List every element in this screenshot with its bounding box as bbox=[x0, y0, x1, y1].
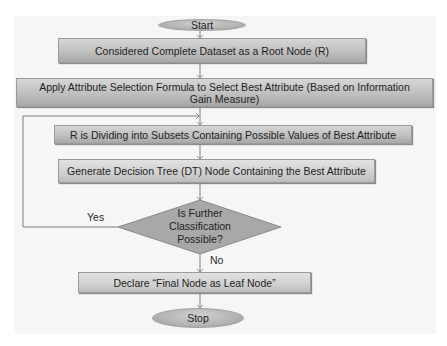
step-generate-node: Generate Decision Tree (DT) Node Contain… bbox=[58, 159, 375, 183]
step-declare-leaf: Declare “Final Node as Leaf Node” bbox=[78, 272, 311, 293]
step-root-node: Considered Complete Dataset as a Root No… bbox=[58, 38, 366, 63]
decision-text: Is Further Classification Possible? bbox=[150, 207, 250, 246]
start-label: Start bbox=[191, 19, 213, 31]
step-divide-subsets: R is Dividing into Subsets Containing Po… bbox=[54, 125, 412, 144]
stop-node: Stop bbox=[152, 308, 244, 328]
start-node: Start bbox=[158, 19, 246, 31]
no-label: No bbox=[210, 254, 223, 266]
step-attribute-selection: Apply Attribute Selection Formula to Sel… bbox=[16, 78, 433, 107]
yes-label: Yes bbox=[87, 211, 104, 223]
stop-label: Stop bbox=[187, 312, 209, 324]
